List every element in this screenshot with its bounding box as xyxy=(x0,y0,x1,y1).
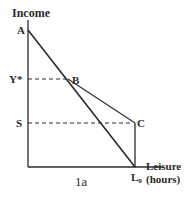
budget-line-a-l0 xyxy=(28,30,135,167)
s-label: S xyxy=(16,117,22,129)
point-c-label: C xyxy=(137,117,145,129)
point-a-label: A xyxy=(17,24,25,36)
y-star-label: Y* xyxy=(9,73,23,85)
y-axis-label: Income xyxy=(12,6,51,20)
l0-subscript: 0 xyxy=(138,177,142,185)
point-b-label: B xyxy=(72,74,80,86)
l0-main: L xyxy=(131,171,138,183)
x-axis-label-line1: Leisure xyxy=(146,160,181,172)
point-l0-label: L0 xyxy=(131,171,142,185)
x-axis-label-line2: (hours) xyxy=(146,173,181,186)
income-leisure-diagram: Income A Y* B S C L0 Leisure (hours) 1a xyxy=(0,0,190,197)
bottom-caption: 1a xyxy=(75,174,88,189)
